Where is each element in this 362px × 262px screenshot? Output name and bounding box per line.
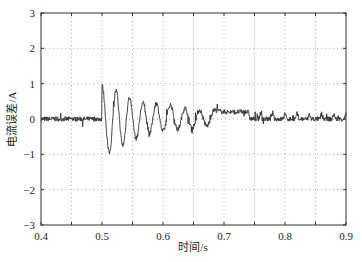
x-tick-label: 0.5 <box>95 230 109 242</box>
x-tick-label: 0.9 <box>339 230 353 242</box>
y-tick-label: 3 <box>30 7 36 19</box>
y-tick-label: 0 <box>30 113 36 125</box>
y-tick-label: −1 <box>23 148 35 160</box>
x-tick-label: 0.8 <box>278 230 292 242</box>
y-tick-label: 2 <box>30 42 36 54</box>
x-tick-label: 0.7 <box>217 230 231 242</box>
x-axis-label: 时间/s <box>178 241 207 253</box>
chart: −3−2−10123 0.40.50.60.70.80.9 时间/s 电流误差/… <box>0 0 362 262</box>
y-tick-label: −2 <box>23 184 35 196</box>
x-tick-label: 0.6 <box>156 230 170 242</box>
y-tick-labels: −3−2−10123 <box>23 7 35 231</box>
x-tick-label: 0.4 <box>34 230 48 242</box>
y-axis-label: 电流误差/A <box>5 91 18 146</box>
y-tick-label: 1 <box>30 78 36 90</box>
